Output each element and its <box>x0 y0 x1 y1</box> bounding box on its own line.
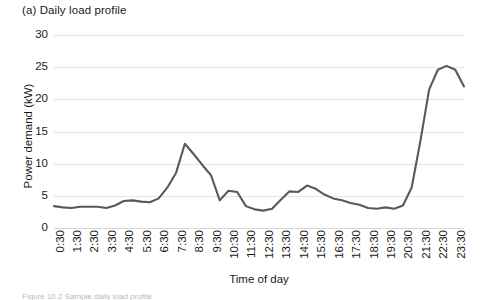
x-tick-label-12-30: 12:30 <box>268 230 280 259</box>
x-tick-label-15-30: 15:30 <box>320 230 332 259</box>
figure-caption-clipped: Figure 10.2 Sample daily load profile <box>22 292 462 300</box>
y-tick-label-10: 10 <box>35 158 48 170</box>
x-tick-label-16-30: 16:30 <box>338 230 350 259</box>
x-tick-label-1-30: 1:30 <box>76 230 88 252</box>
y-axis-tick-labels: 302520151050 <box>0 0 52 300</box>
x-tick-label-4-30: 4:30 <box>128 230 140 252</box>
x-tick-label-21-30: 21:30 <box>425 230 437 259</box>
x-tick-label-22-30: 22:30 <box>442 230 454 259</box>
x-tick-label-10-30: 10:30 <box>233 230 245 259</box>
x-tick-label-3-30: 3:30 <box>111 230 123 252</box>
x-tick-label-0-30: 0:30 <box>59 230 71 252</box>
load-profile-series <box>54 35 464 228</box>
y-tick-label-25: 25 <box>35 61 48 73</box>
figure-daily-load-profile: (a) Daily load profile Power demand (kW)… <box>0 0 482 300</box>
x-tick-label-6-30: 6:30 <box>163 230 175 252</box>
plot-area <box>54 35 464 228</box>
y-tick-label-15: 15 <box>35 126 48 138</box>
x-tick-label-7-30: 7:30 <box>181 230 193 252</box>
x-tick-label-18-30: 18:30 <box>373 230 385 259</box>
x-tick-label-14-30: 14:30 <box>303 230 315 259</box>
y-tick-label-0: 0 <box>42 222 48 234</box>
x-tick-label-13-30: 13:30 <box>285 230 297 259</box>
power-demand-line <box>54 66 464 211</box>
y-tick-label-20: 20 <box>35 94 48 106</box>
x-tick-label-17-30: 17:30 <box>355 230 367 259</box>
x-tick-label-5-30: 5:30 <box>146 230 158 252</box>
x-tick-label-8-30: 8:30 <box>198 230 210 252</box>
x-tick-label-9-30: 9:30 <box>216 230 228 252</box>
x-tick-label-23-30: 23:30 <box>460 230 472 259</box>
x-tick-label-11-30: 11:30 <box>250 230 262 258</box>
x-tick-label-2-30: 2:30 <box>93 230 105 252</box>
x-tick-label-19-30: 19:30 <box>390 230 402 259</box>
x-tick-label-20-30: 20:30 <box>407 230 419 259</box>
y-tick-label-5: 5 <box>42 190 48 202</box>
y-tick-label-30: 30 <box>35 29 48 41</box>
figure-caption-text: Figure 10.2 Sample daily load profile <box>22 292 462 300</box>
x-axis-title: Time of day <box>54 273 464 285</box>
x-axis-tick-labels: 0:301:302:303:304:305:306:307:308:309:30… <box>54 230 464 274</box>
